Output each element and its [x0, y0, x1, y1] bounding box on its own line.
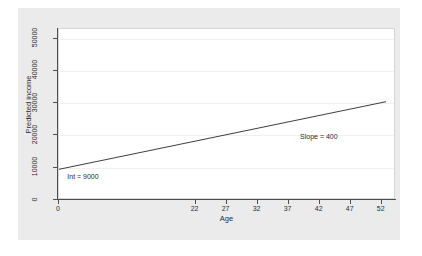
figure-background: Predicted income 01000020000300004000050…: [18, 8, 400, 240]
x-tick-mark: [381, 200, 382, 204]
annotation-slope: Slope = 400: [300, 133, 338, 140]
y-tick-mark: [53, 38, 57, 39]
annotation-intercept: Int = 9000: [67, 173, 98, 180]
y-tick-label-text: 40000: [31, 60, 38, 79]
y-tick-mark: [53, 199, 57, 200]
y-tick-label-text: 10000: [31, 157, 38, 176]
x-tick-mark: [257, 200, 258, 204]
x-tick-mark: [319, 200, 320, 204]
y-tick-mark: [53, 167, 57, 168]
x-tick-mark: [226, 200, 227, 204]
data-line-series: [59, 29, 394, 198]
y-tick-label-text: 30000: [31, 92, 38, 111]
y-tick-label-text: 50000: [31, 28, 38, 47]
y-tick-mark: [53, 70, 57, 71]
x-tick-mark: [195, 200, 196, 204]
x-axis-title: Age: [58, 214, 395, 223]
x-tick-mark: [350, 200, 351, 204]
y-tick-label-text: 20000: [31, 125, 38, 144]
y-tick-label-text: 0: [31, 197, 38, 201]
x-tick-mark: [288, 200, 289, 204]
y-tick-mark: [53, 102, 57, 103]
plot-area: [58, 28, 395, 199]
x-tick-mark: [58, 200, 59, 204]
y-tick-mark: [53, 134, 57, 135]
x-tick-label: 0: [38, 205, 78, 212]
x-tick-label: 52: [361, 205, 401, 212]
